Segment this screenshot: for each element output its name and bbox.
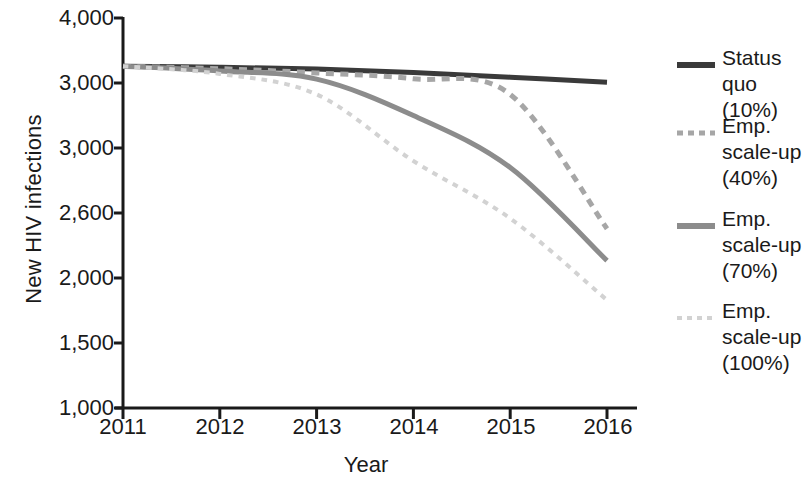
legend-swatch-status-quo — [676, 58, 716, 72]
series-line-2 — [123, 66, 607, 260]
chart-legend: Status quo (10%) Emp. scale-up (40%) Emp… — [676, 0, 810, 489]
legend-swatch-emp-scale-up-70 — [676, 219, 716, 233]
data-series-lines — [123, 66, 607, 300]
legend-label-emp-scale-up-70: Emp. scale-up (70%) — [722, 206, 810, 284]
series-line-1 — [123, 66, 607, 228]
series-line-3 — [123, 66, 607, 300]
legend-swatch-emp-scale-up-40 — [676, 126, 716, 140]
hiv-infections-line-chart: New HIV infections 4,000 3,000 3,000 2,6… — [0, 0, 810, 489]
legend-label-emp-scale-up-40: Emp. scale-up (40%) — [722, 113, 810, 191]
legend-label-emp-scale-up-100: Emp. scale-up (100%) — [722, 298, 810, 376]
legend-label-status-quo: Status quo (10%) — [722, 45, 810, 123]
legend-swatch-emp-scale-up-100 — [676, 311, 716, 325]
